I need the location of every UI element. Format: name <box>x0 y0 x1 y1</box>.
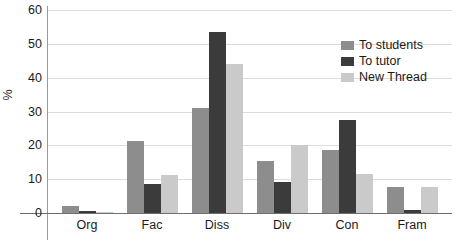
y-axis-tick-label: 50 <box>2 37 42 51</box>
bar-group <box>127 10 178 213</box>
x-axis-line <box>20 213 452 214</box>
y-axis-tick-label: 30 <box>2 105 42 119</box>
bar <box>356 174 373 213</box>
y-axis-line <box>47 6 48 240</box>
bar-group <box>192 10 243 213</box>
bar <box>192 108 209 213</box>
y-axis-tick-label: 0 <box>2 206 42 220</box>
legend-label: New Thread <box>359 71 427 84</box>
bar <box>144 184 161 213</box>
bar <box>127 141 144 213</box>
legend-swatch-icon <box>341 73 354 82</box>
bar-chart: 0102030405060 % OrgFacDissDivConFram To … <box>0 0 460 250</box>
y-axis-tick-label: 60 <box>2 3 42 17</box>
y-axis-tick-label: 20 <box>2 138 42 152</box>
bar <box>387 187 404 213</box>
legend-item: To students <box>341 38 427 53</box>
x-axis-tick-label: Fram <box>372 218 452 232</box>
legend-label: To tutor <box>359 55 401 68</box>
legend-label: To students <box>359 39 423 52</box>
bar-group <box>62 10 113 213</box>
bar <box>209 32 226 213</box>
legend-item: New Thread <box>341 70 427 85</box>
y-axis-ticks: 0102030405060 <box>0 0 42 250</box>
bar <box>339 120 356 213</box>
y-axis-tick-label: 40 <box>2 71 42 85</box>
bar <box>291 145 308 213</box>
y-axis-tick-label: 10 <box>2 172 42 186</box>
bar <box>257 161 274 213</box>
bar <box>226 64 243 213</box>
bar-group <box>257 10 308 213</box>
legend-swatch-icon <box>341 57 354 66</box>
bar <box>161 175 178 213</box>
y-axis-label: % <box>1 89 15 100</box>
legend: To studentsTo tutorNew Thread <box>341 38 427 85</box>
legend-item: To tutor <box>341 54 427 69</box>
bar <box>322 150 339 213</box>
bar <box>62 206 79 213</box>
legend-swatch-icon <box>341 41 354 50</box>
bar <box>421 187 438 213</box>
bar <box>274 182 291 213</box>
